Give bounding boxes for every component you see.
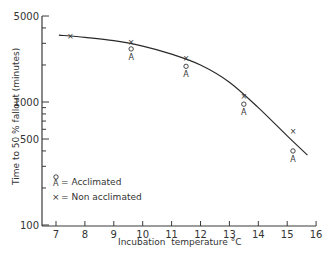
y-tick-label: 500 [20, 134, 39, 145]
acclimated-point-circle [291, 149, 295, 153]
chart: 7891011121314151610050010005000 AAAA××××… [0, 0, 332, 259]
acclimated-point-label: A [290, 155, 296, 164]
legend: A = Acclimated × = Non acclimated [52, 175, 142, 202]
y-axis-label: Time to 50 % fallout (minutes) [11, 48, 21, 186]
acclimated-point-label: A [128, 53, 134, 62]
acclimated-point-label: A [241, 108, 247, 117]
legend-non-acclimated-label: = Non acclimated [61, 192, 142, 202]
non-acclimated-point: × [183, 54, 190, 63]
y-tick-label: 5000 [14, 11, 39, 22]
acclimated-point-circle [184, 64, 188, 68]
y-tick-label: 100 [20, 220, 39, 231]
x-tick-label: 8 [82, 229, 88, 240]
acclimated-point-circle [242, 102, 246, 106]
non-acclimated-point: × [290, 127, 297, 136]
legend-acclimated-label: = Acclimated [61, 177, 121, 187]
x-axis-label: Incubation temperature °C [118, 237, 241, 247]
x-tick-label: 14 [252, 229, 265, 240]
acclimated-point-label: A [183, 70, 189, 79]
x-tick-label: 16 [310, 229, 323, 240]
non-acclimated-point: × [67, 32, 74, 41]
non-acclimated-point: × [240, 92, 247, 101]
non-acclimated-point: × [128, 38, 135, 47]
x-tick-label: 7 [53, 229, 59, 240]
legend-non-acclimated-symbol: × [52, 192, 60, 202]
x-tick-label: 15 [281, 229, 294, 240]
legend-acclimated-symbol: A [53, 179, 59, 188]
points-group: AAAA××××× [67, 32, 296, 164]
x-tick-label: 9 [111, 229, 117, 240]
